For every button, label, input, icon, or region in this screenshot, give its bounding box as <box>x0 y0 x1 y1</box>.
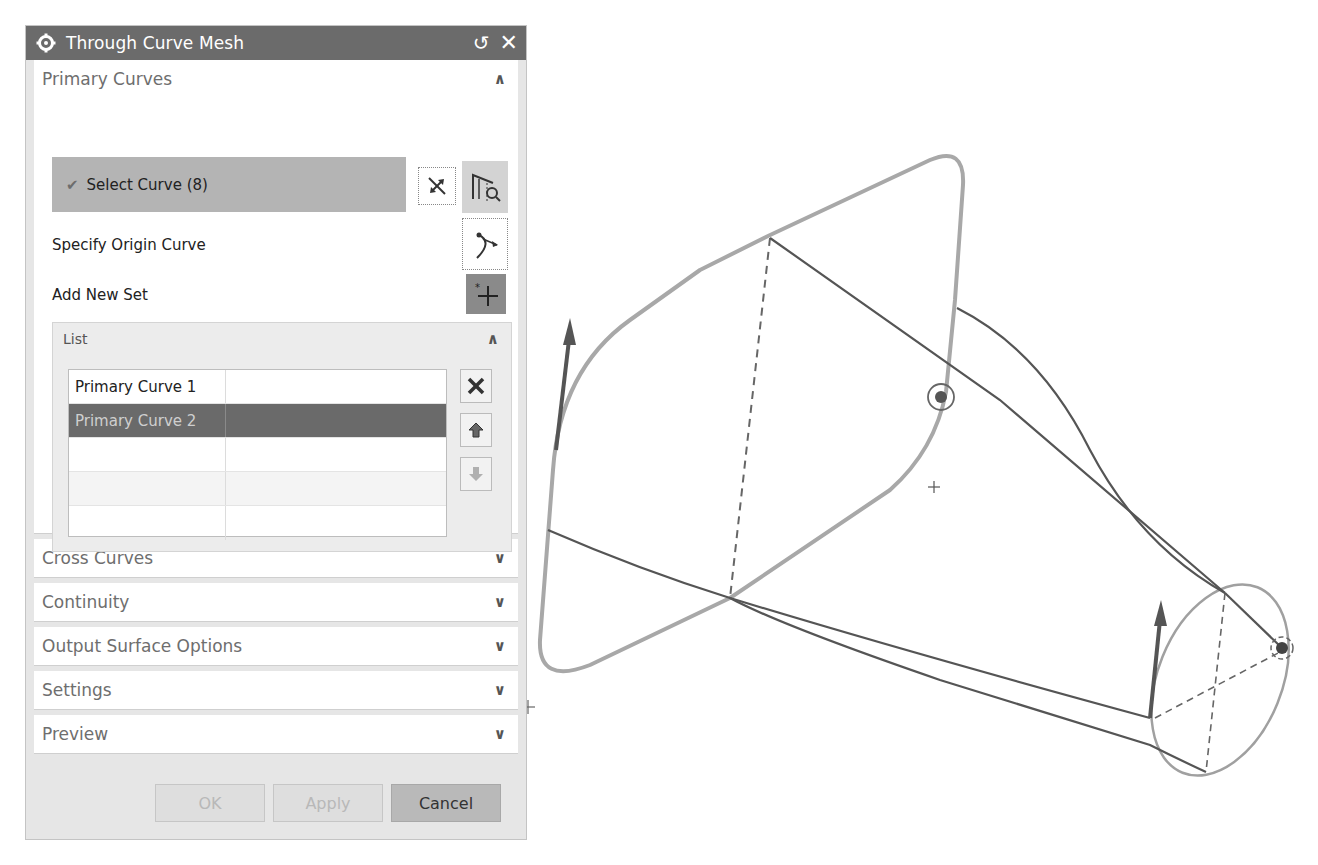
primary-curve-1[interactable] <box>540 156 963 671</box>
curve-rule-button[interactable] <box>462 161 508 213</box>
list-cell-name <box>69 472 226 505</box>
group-preview[interactable]: Preview ∨ <box>34 715 518 754</box>
chevron-up-icon[interactable]: ∧ <box>487 330 499 348</box>
svg-text:*: * <box>475 282 480 293</box>
specify-origin-curve-label: Specify Origin Curve <box>52 236 206 254</box>
reset-icon[interactable]: ↺ <box>473 33 490 53</box>
primary-curves-title: Primary Curves <box>42 69 172 89</box>
gear-icon <box>36 33 56 53</box>
list-row[interactable]: Primary Curve 1 <box>69 370 446 404</box>
through-curve-mesh-dialog: Through Curve Mesh ↺ ✕ Primary Curves ∧ … <box>25 25 527 840</box>
reverse-direction-button[interactable] <box>418 167 456 205</box>
remove-button[interactable] <box>460 369 492 403</box>
move-up-button[interactable] <box>460 413 492 447</box>
list-cell-value <box>226 438 446 471</box>
dialog-footer: OK Apply Cancel <box>26 767 526 839</box>
add-new-set-button[interactable]: * <box>466 274 506 314</box>
center-point-marker-icon <box>928 481 940 493</box>
primary-curve-2-axis-h <box>1155 652 1280 718</box>
list-cell-name <box>69 438 226 471</box>
list-row[interactable] <box>69 506 446 540</box>
add-new-set-label: Add New Set <box>52 286 148 304</box>
continuity-header[interactable]: Continuity ∨ <box>34 583 518 621</box>
output-surface-options-header[interactable]: Output Surface Options ∨ <box>34 627 518 665</box>
origin-curve-icon <box>467 226 503 262</box>
move-up-icon <box>468 422 484 438</box>
direction-arrow-icon[interactable] <box>1150 600 1167 718</box>
chevron-down-icon[interactable]: ∨ <box>494 637 506 655</box>
group-output-surface-options[interactable]: Output Surface Options ∨ <box>34 627 518 666</box>
cross-curve-5[interactable] <box>730 598 1206 772</box>
chevron-up-icon[interactable]: ∧ <box>494 70 506 88</box>
cross-curve-4[interactable] <box>548 530 1150 718</box>
specify-origin-curve-button[interactable] <box>462 218 508 270</box>
ok-button[interactable]: OK <box>155 784 265 822</box>
list-title: List <box>63 331 87 347</box>
list-subgroup: List ∧ Primary Curve 1 Primary Curve 2 <box>52 322 512 552</box>
select-curve-row[interactable]: ✔ Select Curve (8) <box>52 157 406 212</box>
list-cell-value <box>226 404 446 437</box>
settings-header[interactable]: Settings ∨ <box>34 671 518 709</box>
list-cell-value <box>226 370 446 403</box>
axis-marker-icon <box>527 700 535 714</box>
list-cell-name: Primary Curve 1 <box>69 370 226 403</box>
chevron-down-icon[interactable]: ∨ <box>494 681 506 699</box>
list-header[interactable]: List ∧ <box>53 323 511 355</box>
list-cell-value <box>226 472 446 505</box>
cancel-button[interactable]: Cancel <box>391 784 501 822</box>
primary-curve-list[interactable]: Primary Curve 1 Primary Curve 2 <box>68 369 447 537</box>
primary-curves-group: Primary Curves ∧ ✔ Select Curve (8) <box>34 60 518 534</box>
remove-icon <box>465 375 487 397</box>
reverse-direction-icon <box>424 173 450 199</box>
list-cell-value <box>226 506 446 540</box>
close-icon[interactable]: ✕ <box>500 32 518 54</box>
check-icon: ✔ <box>66 176 79 194</box>
cross-curve-3[interactable] <box>1225 593 1282 648</box>
add-set-icon: * <box>472 280 500 308</box>
list-row-selected[interactable]: Primary Curve 2 <box>69 404 446 438</box>
preview-header[interactable]: Preview ∨ <box>34 715 518 753</box>
dialog-titlebar[interactable]: Through Curve Mesh ↺ ✕ <box>26 26 526 60</box>
primary-curve-1-axis <box>730 238 770 598</box>
move-down-button[interactable] <box>460 457 492 491</box>
move-down-icon <box>468 466 484 482</box>
chevron-down-icon[interactable]: ∨ <box>494 725 506 743</box>
list-cell-name: Primary Curve 2 <box>69 404 226 437</box>
list-row[interactable] <box>69 438 446 472</box>
group-title: Continuity <box>42 592 129 612</box>
cross-curve-1[interactable] <box>770 238 1225 593</box>
chevron-down-icon[interactable]: ∨ <box>494 593 506 611</box>
select-curve-label: Select Curve (8) <box>87 176 208 194</box>
group-continuity[interactable]: Continuity ∨ <box>34 583 518 622</box>
group-title: Preview <box>42 724 108 744</box>
group-settings[interactable]: Settings ∨ <box>34 671 518 710</box>
group-title: Output Surface Options <box>42 636 242 656</box>
group-title: Settings <box>42 680 112 700</box>
curve-rule-icon <box>467 169 503 205</box>
graphics-viewport[interactable] <box>527 0 1318 865</box>
list-row[interactable] <box>69 472 446 506</box>
list-cell-name <box>69 506 226 540</box>
apply-button[interactable]: Apply <box>273 784 383 822</box>
dialog-title: Through Curve Mesh <box>66 33 463 53</box>
cross-curve-2[interactable] <box>957 308 1225 593</box>
primary-curves-header[interactable]: Primary Curves ∧ <box>34 60 518 98</box>
